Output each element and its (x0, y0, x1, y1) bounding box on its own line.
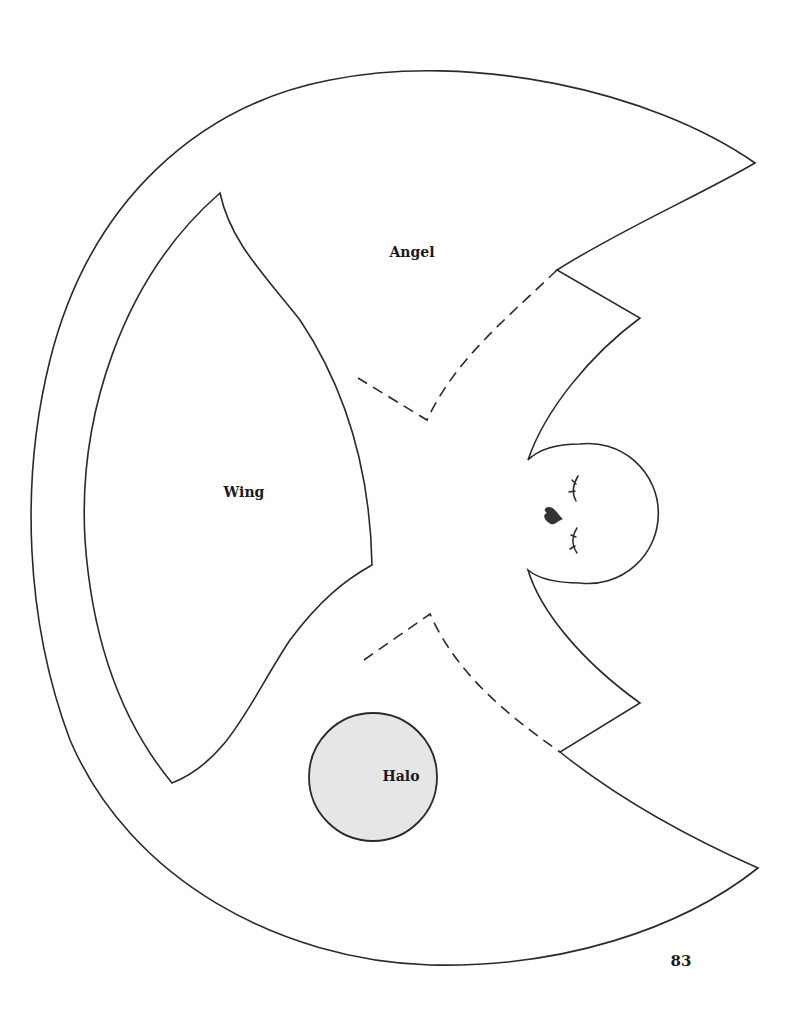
pattern-artwork: Angel Wing Halo 83 (0, 0, 799, 1023)
halo-label: Halo (383, 768, 420, 784)
page-number: 83 (671, 952, 692, 970)
upper-eye-icon (569, 476, 578, 501)
upper-fold-line (358, 270, 557, 420)
angel-label: Angel (388, 244, 434, 260)
heart-icon (544, 507, 563, 524)
wing-label: Wing (223, 484, 265, 500)
pattern-page: Angel Wing Halo 83 (0, 0, 799, 1023)
lower-eye-icon (570, 528, 577, 553)
face (544, 476, 578, 553)
